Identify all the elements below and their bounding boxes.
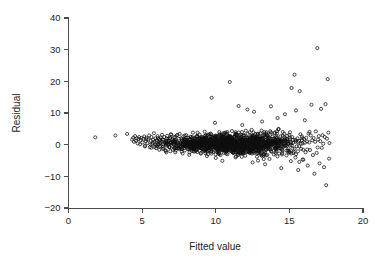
y-tick-label--20: −20: [44, 202, 60, 213]
x-tick-label-0: 0: [66, 215, 71, 226]
y-tick-label-20: 20: [50, 76, 61, 87]
x-tick-label-15: 15: [284, 215, 295, 226]
x-axis-title: Fitted value: [189, 241, 241, 252]
x-tick-label-10: 10: [210, 215, 221, 226]
y-tick-label-40: 40: [50, 12, 61, 23]
y-tick-label-30: 30: [50, 44, 61, 55]
y-tick-label-10: 10: [50, 107, 61, 118]
y-axis-title: Residual: [11, 94, 22, 133]
scatter-plot-canvas: −20−10010203040 05101520 Fitted value Re…: [0, 0, 375, 260]
plot-background: [0, 0, 375, 260]
y-tick-label-0: 0: [55, 139, 60, 150]
y-tick-label--10: −10: [44, 171, 60, 182]
x-tick-label-5: 5: [139, 215, 144, 226]
residual-plot-figure: −20−10010203040 05101520 Fitted value Re…: [0, 0, 375, 260]
x-tick-label-20: 20: [358, 215, 369, 226]
